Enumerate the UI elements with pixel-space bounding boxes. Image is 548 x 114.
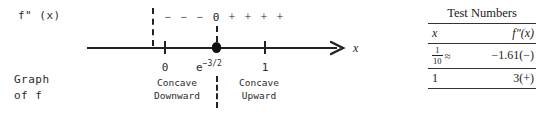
concave-upward-line1: Concave <box>222 76 296 89</box>
dashed-divider-inflection-top <box>216 26 218 42</box>
test-value-fraction: 1 10 <box>432 46 443 66</box>
table-row: 1 3(+) <box>428 69 536 88</box>
zero-marker: 0 <box>208 11 224 24</box>
test-numbers-table: Test Numbers x f"(x) 1 10 ≈ −1.61(−) 1 3… <box>428 6 536 89</box>
concave-downward-line2: Downward <box>140 89 214 102</box>
tick-mark-zero <box>164 41 166 54</box>
plus-sign: + <box>256 10 272 25</box>
concave-downward-caption: Concave Downward <box>140 76 214 102</box>
column-header-x: x <box>432 26 437 41</box>
inflection-point-marker <box>210 40 223 56</box>
plus-sign: + <box>272 10 288 25</box>
table-header-row: x f"(x) <box>428 24 536 43</box>
graph-label-line2: of f <box>14 90 43 101</box>
fraction-numerator: 1 <box>432 46 443 55</box>
axis-arrow-icon <box>330 40 348 56</box>
table-rule-bottom <box>428 88 536 89</box>
column-header-fpp: f"(x) <box>512 26 534 41</box>
approx-sign: ≈ <box>443 50 453 62</box>
minus-sign: − <box>160 10 176 25</box>
axis-value-inflection: e−3/2 <box>196 59 222 74</box>
minus-sign: − <box>176 10 192 25</box>
dashed-divider-origin <box>152 8 154 46</box>
dashed-divider-inflection-bottom <box>216 76 218 108</box>
axis-value-one: 1 <box>255 61 275 74</box>
test-result-value: 3(+) <box>513 71 534 86</box>
concave-upward-line2: Upward <box>222 89 296 102</box>
plus-sign: + <box>240 10 256 25</box>
inflection-sign-chart-figure: f" (x) Graph of f −−−0++++ x 0 e−3/2 1 C… <box>0 0 548 114</box>
graph-label-line1: Graph <box>14 74 50 85</box>
test-numbers-title: Test Numbers <box>428 6 536 23</box>
fraction-denominator: 10 <box>432 57 443 66</box>
test-result-value: −1.61(−) <box>491 48 534 63</box>
axis-label-x: x <box>353 42 358 54</box>
concave-downward-line1: Concave <box>140 76 214 89</box>
plus-sign: + <box>224 10 240 25</box>
test-value-whole: 1 <box>432 71 438 86</box>
second-derivative-label: f" (x) <box>18 10 61 21</box>
sign-row: −−−0++++ <box>160 10 288 25</box>
table-row: 1 10 ≈ −1.61(−) <box>428 44 536 68</box>
axis-value-inflection-exponent: −3/2 <box>203 59 222 68</box>
tick-mark-one <box>264 41 266 54</box>
minus-sign: − <box>192 10 208 25</box>
axis-value-inflection-base: e <box>196 61 203 74</box>
axis-value-zero: 0 <box>155 61 175 74</box>
concave-upward-caption: Concave Upward <box>222 76 296 102</box>
